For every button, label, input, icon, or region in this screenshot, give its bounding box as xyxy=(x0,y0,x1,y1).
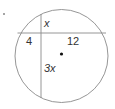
center-point xyxy=(60,52,63,55)
label-right-segment: 12 xyxy=(67,35,79,47)
intersecting-chords-diagram: x 4 12 3x xyxy=(0,0,115,109)
corner-dot xyxy=(3,13,5,15)
label-left-segment: 4 xyxy=(26,35,32,47)
label-bottom-segment: 3x xyxy=(44,62,56,74)
label-top-segment: x xyxy=(43,17,50,29)
circle xyxy=(15,10,108,103)
